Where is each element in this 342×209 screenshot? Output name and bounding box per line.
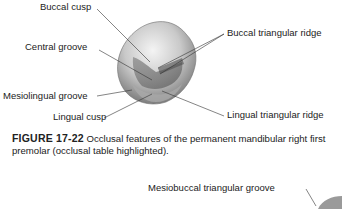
- label-mesiolingual-groove: Mesiolingual groove: [3, 90, 88, 101]
- figure-caption: FIGURE 17-22 Occlusal features of the pe…: [12, 133, 342, 156]
- label-lingual-triangular-ridge: Lingual triangular ridge: [227, 109, 324, 120]
- label-lingual-cusp: Lingual cusp: [53, 111, 106, 122]
- label-buccal-triangular-ridge: Buccal triangular ridge: [227, 27, 322, 38]
- label-buccal-cusp: Buccal cusp: [40, 1, 91, 12]
- label-mesiobuccal-triangular-groove: Mesiobuccal triangular groove: [148, 182, 275, 193]
- figure-number: FIGURE 17-22: [12, 132, 84, 144]
- label-central-groove: Central groove: [25, 41, 87, 52]
